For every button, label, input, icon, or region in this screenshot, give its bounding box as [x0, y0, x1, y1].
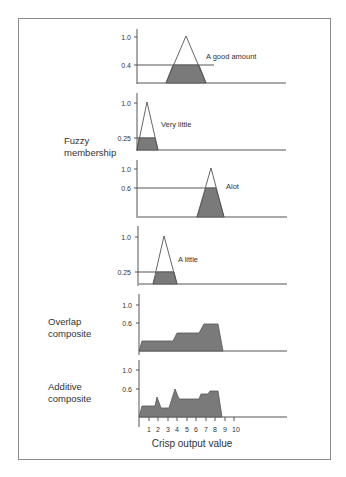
overlap-composite-area: [139, 324, 223, 351]
y-tick-label: 0.4: [121, 62, 131, 69]
x-tick-label: 9: [223, 426, 227, 433]
set-label: Alot: [226, 182, 240, 191]
x-tick-label: 7: [204, 426, 208, 433]
x-axis-title: Crisp output value: [152, 438, 233, 449]
x-tick-labels: 1 2 3 4 5 6 7 8 9 10: [147, 426, 240, 433]
y-tick-label: 1.0: [121, 100, 131, 107]
panel-additive-composite: 1.0 0.6 1 2 3 4 5 6 7 8 9 10: [122, 360, 287, 433]
panel-very-little: 1.0 0.25 Very little: [117, 93, 286, 151]
truncated-area: [153, 272, 177, 284]
fuzzy-diagram: 1.0 0.4 A good amount 1.0 0.25 Very litt…: [0, 0, 346, 477]
x-tick-label: 8: [213, 426, 217, 433]
y-tick-label: 1.0: [121, 166, 131, 173]
y-tick-label: 1.0: [122, 367, 132, 374]
x-tick-label: 3: [166, 426, 170, 433]
set-label: A good amount: [206, 52, 257, 61]
x-tick-label: 5: [185, 426, 189, 433]
panel-a-good-amount: 1.0 0.4 A good amount: [121, 29, 286, 84]
y-tick-label: 0.6: [121, 185, 131, 192]
additive-composite-area: [139, 389, 222, 417]
y-tick-label: 0.6: [122, 386, 132, 393]
x-tick-label: 10: [232, 426, 240, 433]
y-tick-label: 1.0: [121, 34, 131, 41]
set-label: A little: [178, 255, 198, 264]
panel-a-little: 1.0 0.25 A little: [117, 226, 287, 286]
y-tick-label: 0.6: [122, 320, 132, 327]
x-tick-label: 6: [194, 426, 198, 433]
side-label-composite: composite: [48, 393, 91, 404]
y-tick-label: 1.0: [122, 302, 132, 309]
truncated-area: [166, 65, 206, 83]
side-label-additive: Additive: [48, 381, 82, 392]
y-tick-label: 0.25: [117, 135, 131, 142]
x-ticks: [149, 417, 234, 421]
side-label-membership: membership: [64, 147, 116, 158]
panel-a-lot: 1.0 0.6 Alot: [121, 160, 287, 218]
x-tick-label: 4: [175, 426, 179, 433]
set-label: Very little: [161, 120, 191, 129]
y-tick-label: 1.0: [121, 234, 131, 241]
x-tick-label: 2: [156, 426, 160, 433]
side-label-overlap: Overlap: [48, 316, 81, 327]
panel-overlap-composite: 1.0 0.6: [122, 294, 287, 355]
side-label-fuzzy: Fuzzy: [64, 135, 90, 146]
y-tick-label: 0.25: [117, 269, 131, 276]
truncated-area: [137, 138, 158, 150]
side-label-composite: composite: [48, 328, 91, 339]
x-tick-label: 1: [147, 426, 151, 433]
